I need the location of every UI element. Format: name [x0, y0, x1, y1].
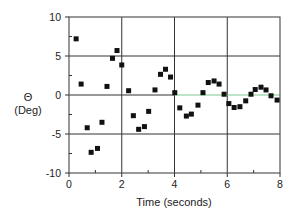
data-point [79, 82, 84, 87]
tick-marks [65, 17, 280, 177]
data-point [104, 84, 109, 89]
x-axis-title: Time (seconds) [136, 196, 211, 208]
data-point [172, 90, 177, 95]
data-point [95, 146, 100, 151]
x-tick-label: 2 [119, 178, 125, 190]
data-point [89, 150, 94, 155]
data-point [158, 72, 163, 77]
data-point [200, 90, 205, 95]
data-point [248, 92, 253, 97]
data-point [146, 109, 151, 114]
y-tick-label: 10 [49, 11, 61, 23]
data-point [177, 105, 182, 110]
data-point [136, 127, 141, 132]
data-point [226, 101, 231, 106]
scatter-chart: -10-5051002468 Θ (Deg) Time (seconds) [0, 0, 295, 218]
data-point [232, 105, 237, 110]
data-point [163, 67, 168, 72]
y-axis-unit: (Deg) [14, 104, 42, 116]
x-tick-label: 0 [66, 178, 72, 190]
data-point [275, 98, 280, 103]
x-tick-label: 6 [224, 178, 230, 190]
data-point [168, 75, 173, 80]
data-point [189, 112, 194, 117]
data-point [85, 125, 90, 130]
y-tick-label: -10 [46, 167, 61, 179]
data-point [222, 92, 227, 97]
data-point [152, 87, 157, 92]
data-point [74, 36, 79, 41]
data-point [243, 98, 248, 103]
data-point [212, 78, 217, 83]
data-point [110, 56, 115, 61]
x-tick-label: 4 [172, 178, 178, 190]
y-tick-label: -5 [52, 128, 61, 140]
y-tick-label: 5 [55, 50, 61, 62]
data-point [269, 93, 274, 98]
data-point [115, 48, 120, 53]
data-point [206, 80, 211, 85]
data-point [126, 88, 131, 93]
y-axis-symbol: Θ [24, 91, 33, 103]
data-point [259, 85, 264, 90]
data-point [237, 104, 242, 109]
data-point [99, 120, 104, 125]
data-points [74, 36, 280, 154]
data-point [195, 103, 200, 108]
data-point [217, 82, 222, 87]
data-point [119, 62, 124, 67]
data-point [131, 113, 136, 118]
data-point [253, 87, 258, 92]
x-tick-label: 8 [277, 178, 283, 190]
y-tick-label: 0 [55, 89, 61, 101]
data-point [264, 87, 269, 92]
data-point [184, 114, 189, 119]
data-point [142, 124, 147, 129]
